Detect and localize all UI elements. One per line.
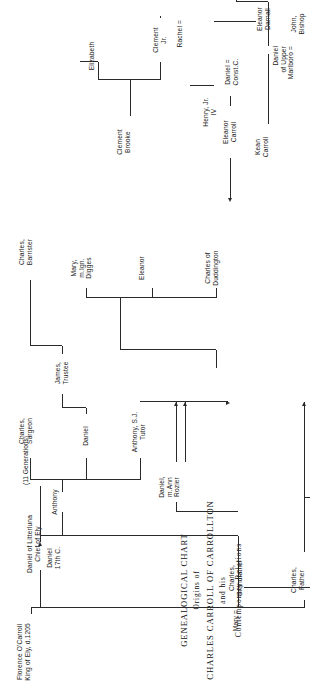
arrow-eleanor-carroll-left (228, 198, 232, 202)
rule-digges-stem (86, 288, 87, 298)
person-james-trustee: James, Trustee (54, 348, 69, 398)
rule-eleanor-darnall-up (214, 21, 256, 22)
rule-rozier-out2 (185, 402, 186, 462)
rule-charles-father-right (304, 402, 305, 552)
rule-daniel17-to-anthony (62, 512, 63, 536)
person-charles-grandfather: Charles, Grandfather (228, 548, 243, 608)
rule-florence-to-daniel (40, 580, 41, 608)
rule-clementjr-to-rachel (160, 16, 161, 18)
rule-kean-stem (268, 54, 269, 124)
rule-daniel-to-james-bracket (62, 407, 86, 408)
rule-daniel17-stem (40, 570, 41, 580)
person-florence-ocarroll: Florence O'Carroll King of Ely, d.1205 (16, 614, 31, 690)
person-clement-jr: Clement Jr. (152, 18, 167, 62)
chart-title-line1: GENEALOGICAL CHART (178, 500, 191, 680)
rule-barrister-in (62, 346, 63, 354)
person-anthony: Anthony (51, 480, 59, 524)
rule-clement-to-elizabeth (98, 62, 99, 80)
person-daniel-const-c: Daniel = Const.C. (224, 46, 239, 98)
person-charles-surgeon: Charles, Surgeon (18, 404, 33, 458)
rule-marlboro-to-john (236, 0, 237, 2)
rule-digges-family-bracket (86, 297, 216, 298)
rule-duddington-stem (216, 288, 217, 298)
rotated-chart-canvas: GENEALOGICAL CHART Origins of CHARLES CA… (0, 0, 310, 698)
person-rachel: Rachel = (176, 20, 184, 68)
rule-digges-bracket-down (120, 349, 216, 350)
rule-rozier-bracket (176, 511, 238, 512)
rule-eleanor-r-stem (152, 288, 153, 298)
rule-rozier-stem (176, 502, 177, 512)
arrow-charles-father-right (302, 402, 306, 406)
rule-james-to-barrister (30, 280, 31, 346)
person-eleanor-carroll: Eleanor Carroll (222, 106, 237, 158)
arrow-generations (38, 542, 42, 546)
person-clement-brooke: Clement Brooke (116, 116, 131, 168)
person-henry-jr-iv: Henry, Jr. IV (202, 86, 217, 138)
chart-sheet: GENEALOGICAL CHART Origins of CHARLES CA… (0, 0, 310, 698)
rule-anthony-to-daniel (86, 458, 87, 480)
person-elizabeth-brooke-child: Elizabeth (88, 32, 96, 80)
person-charles-father: Charles, Father (290, 552, 305, 608)
rule-sheet-spine (40, 607, 238, 608)
person-daniel: Daniel (82, 414, 90, 458)
rule-charles-father-stem (304, 600, 305, 608)
rule-digges-bracket-in (120, 298, 121, 350)
person-charles-barrister: Charles, Barrister (18, 224, 33, 280)
rule-generations-arrow (40, 486, 41, 542)
rule-clement-brooke-bracket (98, 79, 160, 80)
person-mary-grandfather-spouse: Mary = (232, 610, 240, 658)
arrow-anthonysj-down (226, 401, 230, 405)
rule-barrister-bracket (30, 345, 62, 346)
person-daniel-17th-c: Daniel 17th C. (46, 536, 61, 580)
chart-title-line2: Origins of (191, 500, 204, 680)
rule-marlboro-bracket (236, 1, 268, 2)
rule-rozier-out (176, 402, 177, 462)
rule-eleanor-carroll-link (230, 158, 231, 198)
person-eleanor-right: Eleanor (138, 242, 146, 294)
rule-father-down (304, 497, 310, 498)
rule-clement-brooke-stem (130, 80, 131, 116)
rule-elizabeth-child-up (80, 61, 98, 62)
rule-digges-bracket-bottom (216, 350, 217, 368)
rule-daniel-const-stem (230, 96, 231, 106)
chart-title-line3: CHARLES CARROLL OF CARROLLTON (204, 485, 217, 695)
rule-florence-bracket (31, 607, 40, 608)
arrow-rozier-right (174, 402, 178, 406)
person-daniel-upper-marlboro: Daniel of Upper Marlboro = (272, 46, 295, 108)
rule-mary-up (244, 587, 310, 588)
rule-anthony-bracket (30, 479, 140, 480)
person-john-bishop: John, Bishop (290, 2, 305, 46)
person-daniel-ann-rozier: Daniel, m.Ann Rozier (158, 462, 181, 512)
rule-anthony-spine (62, 480, 63, 492)
rule-daniel17-bracket (40, 535, 62, 536)
rule-charles-father-bracket (238, 607, 304, 608)
person-kean-carroll: Kean Carroll (254, 124, 269, 170)
rule-rachel-up (190, 85, 214, 86)
rule-marlboro-out (268, 2, 269, 46)
rule-florence-stem (31, 608, 32, 614)
person-mary-ign-digges: Mary, m.Ign. Digges (70, 242, 93, 294)
rule-clement-to-clementjr (160, 62, 161, 80)
rule-daniel-james-stem (86, 408, 87, 414)
rule-daniel17-down-main (62, 535, 238, 536)
rule-anthony-to-charles-surgeon (30, 458, 31, 480)
person-anthony-sj-tutor: Anthony, S.J. Tutor (131, 402, 146, 462)
